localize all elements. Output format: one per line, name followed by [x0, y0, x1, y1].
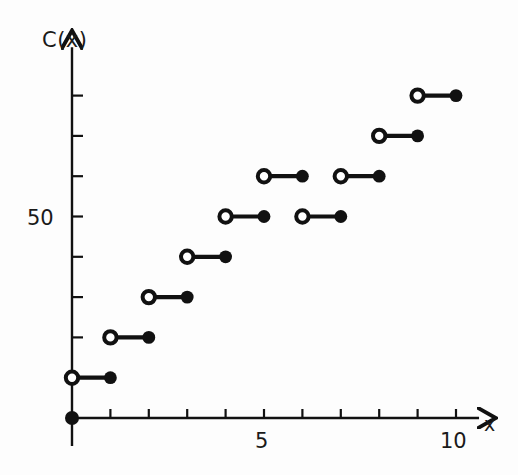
- open-endpoint-marker: [66, 372, 78, 384]
- filled-endpoint-marker: [142, 331, 155, 344]
- x-axis-title: x: [484, 413, 496, 435]
- open-endpoint-marker: [181, 251, 193, 263]
- filled-endpoint-marker: [334, 210, 347, 223]
- open-endpoint-marker: [296, 210, 308, 222]
- filled-endpoint-marker: [373, 170, 386, 183]
- open-endpoint-marker: [411, 89, 423, 101]
- step-function-plot: [0, 0, 518, 475]
- filled-endpoint-marker: [104, 371, 117, 384]
- x-tick-label-5: 5: [255, 429, 268, 453]
- y-tick-label-50: 50: [27, 206, 54, 230]
- filled-endpoint-marker: [296, 170, 309, 183]
- origin-filled-dot: [65, 411, 79, 425]
- filled-endpoint-marker: [411, 130, 424, 143]
- filled-endpoint-marker: [181, 291, 194, 304]
- chart-figure: C(x) x 50 5 10: [0, 0, 518, 475]
- filled-endpoint-marker: [450, 89, 463, 102]
- open-endpoint-marker: [143, 291, 155, 303]
- open-endpoint-marker: [258, 170, 270, 182]
- open-endpoint-marker: [373, 130, 385, 142]
- filled-endpoint-marker: [258, 210, 271, 223]
- open-endpoint-marker: [104, 331, 116, 343]
- open-endpoint-marker: [335, 170, 347, 182]
- open-endpoint-marker: [219, 210, 231, 222]
- y-axis-title: C(x): [42, 28, 87, 52]
- x-tick-label-10: 10: [440, 429, 467, 453]
- filled-endpoint-marker: [219, 250, 232, 263]
